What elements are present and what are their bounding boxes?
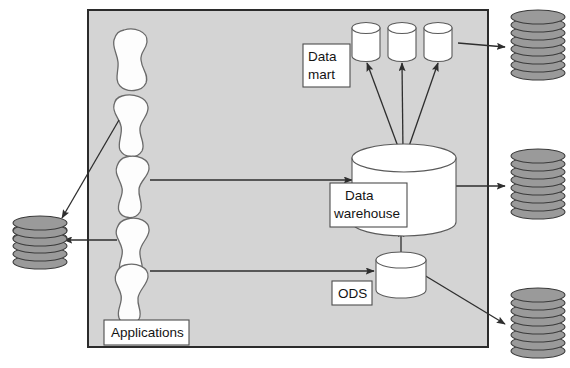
data-mart-cylinder-3 — [424, 23, 452, 62]
data-mart-cylinder-1 — [352, 23, 380, 62]
applications-group — [114, 29, 150, 324]
data-mart-label-line2: mart — [308, 67, 335, 82]
diagram-root: Data mart Data warehouse ODS Application… — [0, 0, 570, 368]
applications-label-text: Applications — [111, 325, 184, 340]
data-warehouse-label-line2: warehouse — [333, 206, 400, 221]
data-mart-label: Data mart — [303, 44, 350, 87]
architecture-diagram-canvas: Data mart Data warehouse ODS Application… — [0, 0, 570, 368]
disk-stack-right-middle — [511, 149, 565, 219]
disk-stack-left — [13, 216, 67, 269]
applications-label: Applications — [104, 320, 189, 345]
ods-label: ODS — [332, 281, 372, 305]
data-warehouse-label: Data warehouse — [330, 183, 407, 227]
data-mart-cylinder-2 — [388, 23, 416, 62]
ods-label-text: ODS — [338, 286, 367, 301]
disk-stack-right-bottom — [511, 288, 565, 358]
ods-cylinder — [376, 252, 426, 298]
data-mart-label-line1: Data — [308, 49, 337, 64]
data-marts-group — [352, 23, 452, 62]
disk-stack-right-top — [511, 10, 565, 80]
data-warehouse-label-line1: Data — [345, 188, 374, 203]
